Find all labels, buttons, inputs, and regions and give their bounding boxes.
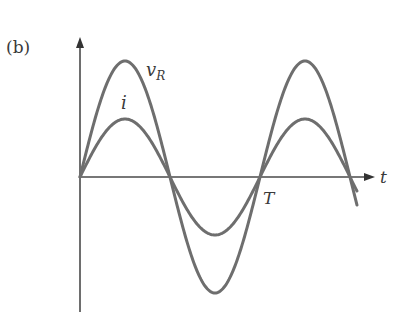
vr-label-subscript: R [155,69,165,83]
x-axis-arrowhead-icon [364,173,375,181]
panel-label: (b) [6,37,30,57]
period-label: T [263,188,276,208]
y-axis-arrowhead-icon [76,37,84,48]
x-axis-label: t [380,167,387,187]
i-label: i [121,92,127,113]
vr-label-main: v [146,59,156,80]
vr-label: vR [146,59,165,83]
vr-i-phase-diagram: (b) t vR i T [0,0,416,325]
